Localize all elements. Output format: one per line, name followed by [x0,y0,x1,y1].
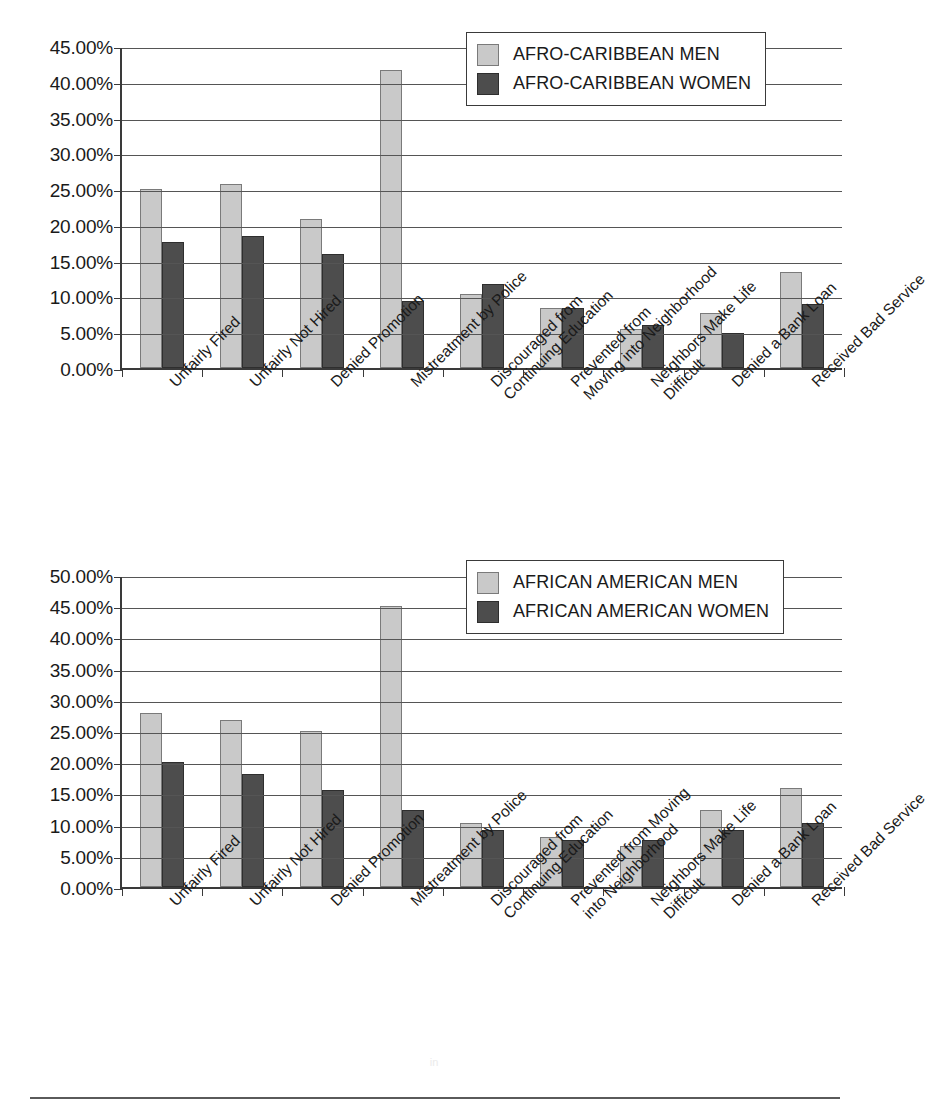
y-axis-tick-mark [114,795,122,796]
y-axis-tick-label: 50.00% [50,566,113,588]
y-axis-tick-mark [114,639,122,640]
legend-label: AFRO-CARIBBEAN MEN [513,44,720,65]
gridline [122,764,842,765]
legend-swatch-icon [477,572,499,594]
legend-chart1: AFRO-CARIBBEAN MENAFRO-CARIBBEAN WOMEN [466,32,766,106]
y-axis-tick-label: 20.00% [50,216,113,238]
y-axis-tick-mark [114,334,122,335]
y-axis-tick-label: 40.00% [50,628,113,650]
y-axis-tick-mark [114,858,122,859]
chart-afro-caribbean: 0.00%5.00%10.00%15.00%20.00%25.00%30.00%… [0,18,868,538]
y-axis-tick-mark [114,120,122,121]
y-axis-tick-mark [114,263,122,264]
x-axis-tick-mark [122,368,123,377]
y-axis-tick-label: 0.00% [60,359,113,381]
bar-women [242,236,264,368]
title-remnant [0,0,868,14]
gridline [122,155,842,156]
bar-group [122,577,202,887]
gridline [122,702,842,703]
x-axis-tick-mark [282,887,283,896]
legend-chart2: AFRICAN AMERICAN MENAFRICAN AMERICAN WOM… [466,560,784,634]
y-axis-tick-mark [114,370,122,371]
y-axis-tick-mark [114,191,122,192]
x-axis-tick-mark [122,887,123,896]
legend-swatch-icon [477,44,499,66]
x-axis-tick-mark [363,887,364,896]
y-axis-tick-label: 35.00% [50,660,113,682]
gridline [122,191,842,192]
legend-row: AFRICAN AMERICAN WOMEN [477,597,769,626]
bar-men [140,189,162,368]
y-axis-tick-label: 20.00% [50,753,113,775]
y-axis-tick-mark [114,827,122,828]
y-axis-tick-label: 30.00% [50,691,113,713]
x-axis-tick-mark [443,368,444,377]
legend-row: AFRICAN AMERICAN MEN [477,568,769,597]
x-axis-tick-mark [844,887,845,896]
x-axis-tick-mark [282,368,283,377]
y-axis-tick-label: 40.00% [50,73,113,95]
x-axis-tick-mark [363,368,364,377]
bar-women [162,242,184,368]
y-axis-tick-mark [114,577,122,578]
gridline [122,671,842,672]
x-axis-labels-chart1: Unfairly FiredUnfairly Not HiredDenied P… [120,378,840,538]
y-axis-tick-label: 35.00% [50,109,113,131]
y-axis-tick-mark [114,702,122,703]
y-axis-tick-label: 10.00% [50,287,113,309]
bar-group [122,48,202,368]
y-axis-tick-mark [114,733,122,734]
y-axis-tick-label: 45.00% [50,597,113,619]
footer-ghost-text: in [0,1056,868,1068]
legend-label: AFRICAN AMERICAN MEN [513,572,738,593]
bar-women [242,774,264,887]
y-axis-tick-label: 5.00% [60,847,113,869]
bar-men [140,713,162,887]
x-axis-tick-mark [202,368,203,377]
gridline [122,227,842,228]
y-axis-tick-mark [114,298,122,299]
gridline [122,795,842,796]
bar-women [162,762,184,887]
y-axis-tick-mark [114,48,122,49]
y-axis-tick-mark [114,764,122,765]
legend-row: AFRO-CARIBBEAN MEN [477,40,751,69]
x-axis-tick-mark [764,887,765,896]
gridline [122,733,842,734]
x-axis-labels-chart2: Unfairly FiredUnfairly Not HiredDenied P… [120,897,840,1057]
bar-group [202,577,282,887]
y-axis-tick-label: 25.00% [50,722,113,744]
y-axis-tick-label: 15.00% [50,784,113,806]
chart-african-american: 0.00%5.00%10.00%15.00%20.00%25.00%30.00%… [0,548,868,1068]
legend-label: AFRICAN AMERICAN WOMEN [513,601,769,622]
gridline [122,263,842,264]
y-axis-tick-label: 45.00% [50,37,113,59]
y-axis-tick-label: 25.00% [50,180,113,202]
y-axis-tick-label: 0.00% [60,878,113,900]
x-axis-tick-mark [844,368,845,377]
x-axis-tick-mark [202,887,203,896]
y-axis-tick-label: 5.00% [60,323,113,345]
legend-swatch-icon [477,601,499,623]
legend-row: AFRO-CARIBBEAN WOMEN [477,69,751,98]
y-axis-tick-mark [114,671,122,672]
gridline [122,639,842,640]
y-axis-tick-mark [114,155,122,156]
y-axis-tick-mark [114,608,122,609]
y-axis-tick-label: 10.00% [50,816,113,838]
gridline [122,120,842,121]
y-axis-tick-mark [114,84,122,85]
y-axis-tick-label: 15.00% [50,252,113,274]
y-axis-tick-mark [114,227,122,228]
bar-group [202,48,282,368]
legend-label: AFRO-CARIBBEAN WOMEN [513,73,751,94]
x-axis-tick-mark [764,368,765,377]
legend-swatch-icon [477,73,499,95]
y-axis-tick-label: 30.00% [50,144,113,166]
y-axis-tick-mark [114,889,122,890]
footer-divider [30,1097,840,1099]
x-axis-tick-mark [443,887,444,896]
